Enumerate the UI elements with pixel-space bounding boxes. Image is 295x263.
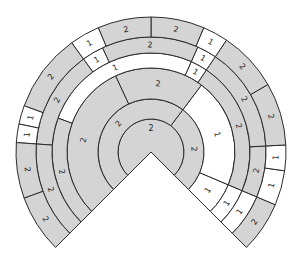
segment-label: 2	[148, 124, 153, 133]
segment-label: 2	[147, 40, 152, 49]
ring-fan-diagram: 2221122121121221212221122122121122	[0, 0, 295, 263]
segment-label: 2	[189, 146, 198, 152]
segment-label: 2	[155, 79, 161, 88]
segment-label: 1	[271, 155, 280, 160]
